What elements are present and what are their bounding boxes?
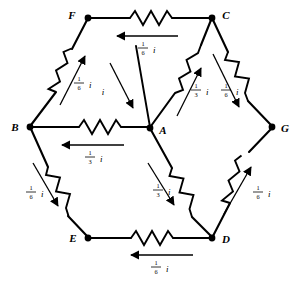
wire-C-G-lower bbox=[248, 101, 271, 125]
svg-text:1: 1 bbox=[88, 149, 91, 156]
node-label-G: G bbox=[281, 122, 289, 134]
svg-text:6: 6 bbox=[141, 49, 144, 56]
svg-text:3: 3 bbox=[156, 191, 159, 198]
svg-text:3: 3 bbox=[88, 158, 91, 165]
current-arrow-A-D bbox=[148, 163, 174, 205]
svg-text:i: i bbox=[166, 264, 169, 274]
svg-text:i: i bbox=[168, 187, 171, 197]
node-dot-D bbox=[209, 235, 216, 242]
branch-B-F bbox=[31, 20, 87, 125]
svg-text:1: 1 bbox=[154, 259, 157, 266]
branch-E-D bbox=[90, 231, 210, 245]
svg-text:1: 1 bbox=[141, 40, 144, 47]
svg-text:1: 1 bbox=[156, 182, 159, 189]
circuit-diagram: F C B A G E D 1 6 i 1 6 i 1 3 i 1 3 i 1 … bbox=[0, 0, 296, 282]
current-label-source: i bbox=[102, 87, 105, 97]
svg-text:i: i bbox=[206, 87, 209, 97]
node-dot-B bbox=[27, 124, 34, 131]
current-label-A-C: 1 3 i bbox=[191, 82, 209, 98]
resistor-D-G bbox=[222, 156, 242, 204]
svg-text:i: i bbox=[41, 189, 44, 199]
svg-text:i: i bbox=[100, 154, 103, 164]
svg-text:1: 1 bbox=[77, 75, 80, 82]
wire-C-G-upper bbox=[213, 20, 228, 52]
current-arrow-source-i bbox=[110, 63, 133, 108]
node-dot-E bbox=[85, 235, 92, 242]
node-label-B: B bbox=[10, 121, 18, 133]
node-label-E: E bbox=[68, 232, 76, 244]
wire-B-E-upper bbox=[31, 129, 48, 167]
node-label-F: F bbox=[67, 9, 76, 21]
wire-D-G-upper bbox=[249, 129, 271, 152]
svg-text:3: 3 bbox=[194, 91, 197, 98]
svg-text:6: 6 bbox=[256, 193, 259, 200]
resistor-F-C bbox=[130, 11, 172, 25]
current-label-E-D: 1 6 i bbox=[151, 259, 169, 275]
node-dot-A bbox=[147, 125, 154, 132]
wire-B-F-lower bbox=[31, 92, 56, 125]
svg-text:1: 1 bbox=[256, 184, 259, 191]
wire-A-D-lower bbox=[192, 217, 211, 236]
wire-B-F-upper bbox=[72, 20, 87, 49]
node-dot-G bbox=[269, 124, 276, 131]
svg-text:1: 1 bbox=[224, 82, 227, 89]
node-label-D: D bbox=[221, 233, 230, 245]
node-dot-C bbox=[209, 15, 216, 22]
resistor-B-F bbox=[49, 49, 72, 93]
branch-B-A bbox=[32, 120, 149, 134]
svg-text:6: 6 bbox=[29, 193, 32, 200]
svg-text:1: 1 bbox=[29, 184, 32, 191]
svg-text:i: i bbox=[236, 87, 239, 97]
wire-A-C-lower bbox=[151, 93, 175, 126]
current-label-B-F: 1 6 i bbox=[74, 75, 92, 91]
wire-A-C-upper bbox=[201, 20, 211, 45]
node-label-A: A bbox=[158, 124, 166, 136]
current-arrow-B-F bbox=[60, 56, 85, 105]
resistor-B-A bbox=[79, 120, 121, 134]
current-label-B-A: 1 3 i bbox=[85, 149, 103, 165]
svg-text:6: 6 bbox=[154, 268, 157, 275]
node-label-C: C bbox=[222, 9, 230, 21]
svg-text:i: i bbox=[153, 45, 156, 55]
current-label-D-G: 1 6 i bbox=[253, 184, 271, 200]
svg-text:6: 6 bbox=[224, 91, 227, 98]
current-arrow-B-E bbox=[33, 163, 58, 206]
resistor-E-D bbox=[131, 231, 173, 245]
current-label-C-G: 1 6 i bbox=[221, 82, 239, 98]
svg-text:i: i bbox=[268, 189, 271, 199]
svg-text:1: 1 bbox=[194, 82, 197, 89]
svg-text:i: i bbox=[89, 80, 92, 90]
current-label-F-C: 1 6 i bbox=[138, 40, 156, 56]
node-dot-F bbox=[85, 15, 92, 22]
input-lead-to-A bbox=[136, 46, 150, 127]
current-label-B-E: 1 6 i bbox=[26, 184, 44, 200]
branch-F-C bbox=[90, 11, 210, 25]
svg-text:6: 6 bbox=[77, 84, 80, 91]
resistor-A-D bbox=[170, 168, 194, 217]
